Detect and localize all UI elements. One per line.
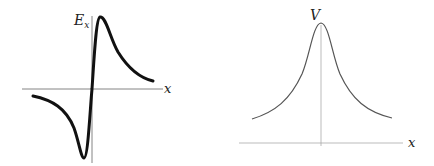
v-plot: V x [239, 7, 416, 150]
ex-x-label: x [164, 81, 172, 96]
ex-curve [33, 17, 153, 158]
ex-y-label: Ex [73, 12, 89, 30]
figure: Ex x V x [0, 0, 434, 166]
ex-plot: Ex x [22, 12, 172, 163]
v-curve [252, 23, 392, 119]
v-x-label: x [408, 135, 416, 150]
v-y-label: V [310, 7, 322, 23]
